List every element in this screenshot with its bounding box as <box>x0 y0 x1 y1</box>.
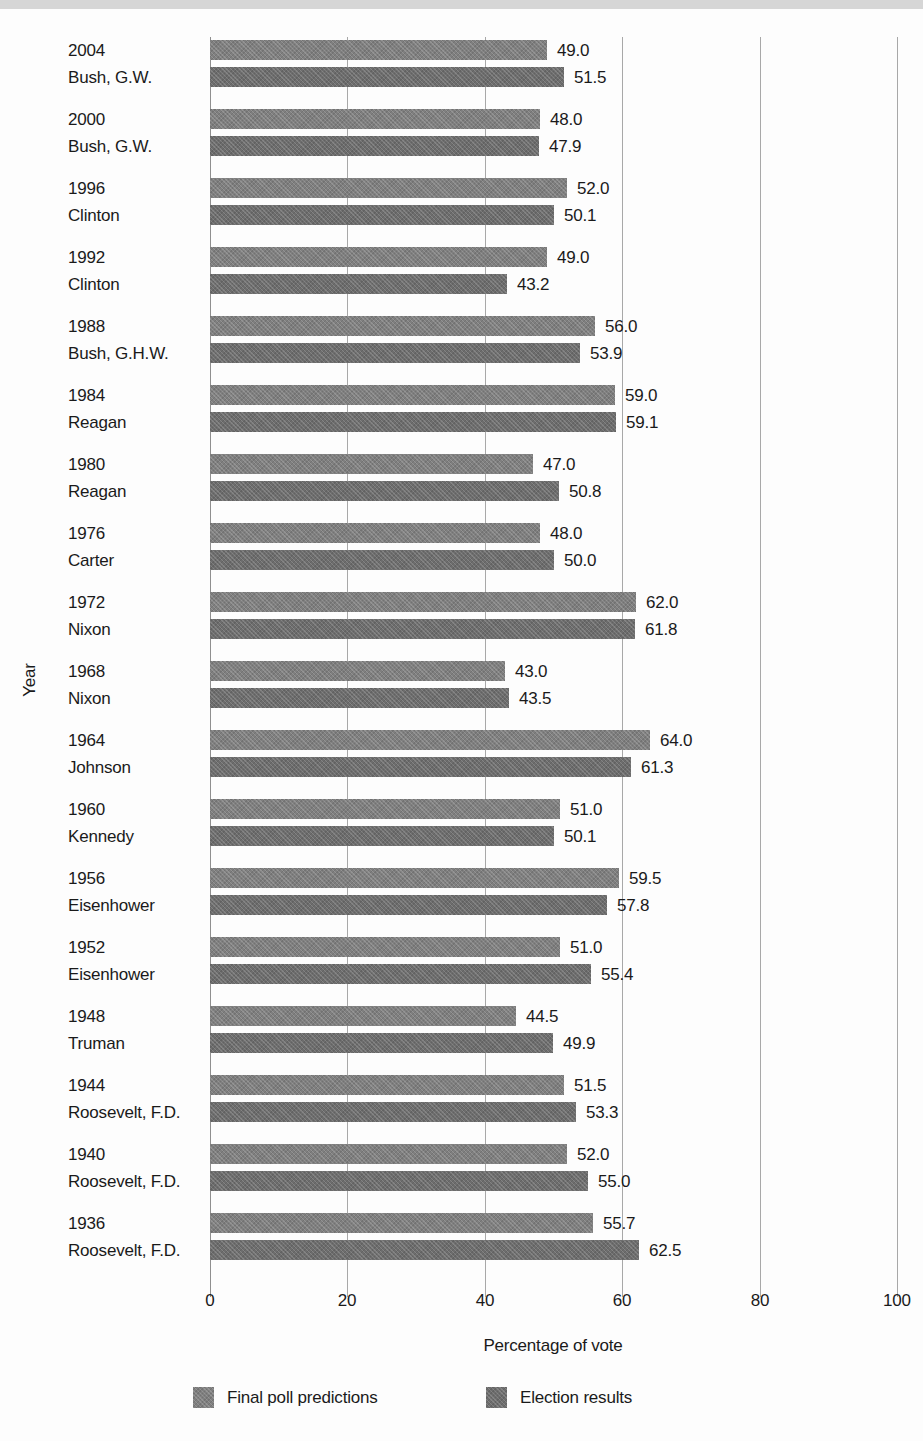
value-label-result-1980: 50.8 <box>569 481 601 501</box>
x-tick-label-40: 40 <box>453 1291 517 1311</box>
bar-poll-2000 <box>210 109 540 129</box>
legend-swatch-election-results <box>486 1387 507 1408</box>
candidate-label-1948: Truman <box>68 1033 125 1053</box>
value-label-poll-2000: 48.0 <box>550 109 582 129</box>
bar-poll-1996 <box>210 178 567 198</box>
bar-result-1968 <box>210 688 509 708</box>
value-label-result-1992: 43.2 <box>517 274 549 294</box>
bar-result-1944 <box>210 1102 576 1122</box>
bar-poll-1972 <box>210 592 636 612</box>
year-label-1964: 1964 <box>68 730 105 750</box>
year-label-1956: 1956 <box>68 868 105 888</box>
candidate-label-1964: Johnson <box>68 757 131 777</box>
bar-result-1940 <box>210 1171 588 1191</box>
value-label-result-1996: 50.1 <box>564 205 596 225</box>
bar-result-1980 <box>210 481 559 501</box>
candidate-label-1936: Roosevelt, F.D. <box>68 1240 180 1260</box>
x-tick-label-20: 20 <box>315 1291 379 1311</box>
candidate-label-1940: Roosevelt, F.D. <box>68 1171 180 1191</box>
bar-result-2000 <box>210 136 539 156</box>
value-label-poll-1944: 51.5 <box>574 1075 606 1095</box>
value-label-result-1944: 53.3 <box>586 1102 618 1122</box>
bar-result-1960 <box>210 826 554 846</box>
bar-poll-1940 <box>210 1144 567 1164</box>
candidate-label-1980: Reagan <box>68 481 126 501</box>
value-label-result-1956: 57.8 <box>617 895 649 915</box>
x-tick-label-60: 60 <box>590 1291 654 1311</box>
value-label-result-1952: 55.4 <box>601 964 633 984</box>
value-label-poll-1956: 59.5 <box>629 868 661 888</box>
value-label-poll-1968: 43.0 <box>515 661 547 681</box>
year-label-1944: 1944 <box>68 1075 105 1095</box>
bar-poll-1980 <box>210 454 533 474</box>
bar-poll-1988 <box>210 316 595 336</box>
y-axis-label: Year <box>20 663 40 697</box>
year-label-1936: 1936 <box>68 1213 105 1233</box>
bar-result-2004 <box>210 67 564 87</box>
bar-poll-1976 <box>210 523 540 543</box>
value-label-poll-1936: 55.7 <box>603 1213 635 1233</box>
x-tick-label-80: 80 <box>728 1291 792 1311</box>
value-label-poll-1948: 44.5 <box>526 1006 558 1026</box>
year-label-2004: 2004 <box>68 40 105 60</box>
year-label-1960: 1960 <box>68 799 105 819</box>
year-label-1948: 1948 <box>68 1006 105 1026</box>
candidate-label-2004: Bush, G.W. <box>68 67 152 87</box>
x-tick-label-0: 0 <box>178 1291 242 1311</box>
grouped-bar-chart: Year Percentage of vote Final poll predi… <box>0 0 923 1441</box>
candidate-label-1956: Eisenhower <box>68 895 155 915</box>
value-label-result-1984: 59.1 <box>626 412 658 432</box>
value-label-result-1940: 55.0 <box>598 1171 630 1191</box>
candidate-label-1952: Eisenhower <box>68 964 155 984</box>
bar-poll-1984 <box>210 385 615 405</box>
year-label-1984: 1984 <box>68 385 105 405</box>
candidate-label-1984: Reagan <box>68 412 126 432</box>
grid-line-60 <box>622 37 623 1297</box>
bar-poll-1944 <box>210 1075 564 1095</box>
legend-item-poll-predictions: Final poll predictions <box>193 1387 378 1408</box>
year-label-1988: 1988 <box>68 316 105 336</box>
bar-result-1948 <box>210 1033 553 1053</box>
value-label-result-1960: 50.1 <box>564 826 596 846</box>
value-label-poll-1972: 62.0 <box>646 592 678 612</box>
bar-poll-2004 <box>210 40 547 60</box>
legend-item-election-results: Election results <box>486 1387 632 1408</box>
value-label-result-1968: 43.5 <box>519 688 551 708</box>
value-label-poll-1940: 52.0 <box>577 1144 609 1164</box>
candidate-label-1976: Carter <box>68 550 114 570</box>
value-label-poll-1984: 59.0 <box>625 385 657 405</box>
bar-poll-1968 <box>210 661 505 681</box>
candidate-label-1968: Nixon <box>68 688 110 708</box>
bar-poll-1964 <box>210 730 650 750</box>
value-label-result-1936: 62.5 <box>649 1240 681 1260</box>
bar-result-1956 <box>210 895 607 915</box>
candidate-label-1960: Kennedy <box>68 826 134 846</box>
year-label-1976: 1976 <box>68 523 105 543</box>
bar-result-1984 <box>210 412 616 432</box>
year-label-1992: 1992 <box>68 247 105 267</box>
value-label-poll-1996: 52.0 <box>577 178 609 198</box>
value-label-poll-1988: 56.0 <box>605 316 637 336</box>
value-label-result-1976: 50.0 <box>564 550 596 570</box>
bar-result-1952 <box>210 964 591 984</box>
value-label-poll-2004: 49.0 <box>557 40 589 60</box>
bar-poll-1948 <box>210 1006 516 1026</box>
value-label-poll-1960: 51.0 <box>570 799 602 819</box>
year-label-1940: 1940 <box>68 1144 105 1164</box>
candidate-label-1972: Nixon <box>68 619 110 639</box>
candidate-label-1944: Roosevelt, F.D. <box>68 1102 180 1122</box>
bar-result-1976 <box>210 550 554 570</box>
bar-poll-1992 <box>210 247 547 267</box>
bar-result-1964 <box>210 757 631 777</box>
value-label-poll-1976: 48.0 <box>550 523 582 543</box>
year-label-1952: 1952 <box>68 937 105 957</box>
bar-poll-1936 <box>210 1213 593 1233</box>
x-tick-label-100: 100 <box>865 1291 923 1311</box>
bar-poll-1960 <box>210 799 560 819</box>
value-label-result-2004: 51.5 <box>574 67 606 87</box>
candidate-label-1992: Clinton <box>68 274 120 294</box>
year-label-1980: 1980 <box>68 454 105 474</box>
bar-result-1972 <box>210 619 635 639</box>
value-label-poll-1964: 64.0 <box>660 730 692 750</box>
bar-result-1936 <box>210 1240 639 1260</box>
